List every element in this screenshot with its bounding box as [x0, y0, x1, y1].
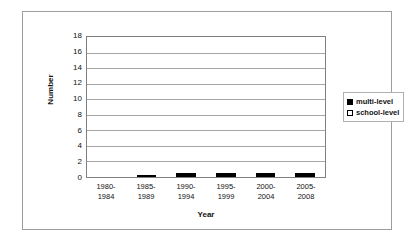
x-tick-line-1: 2000-: [246, 182, 286, 192]
filled-square-swatch: [347, 99, 353, 105]
bar-slot: [127, 37, 167, 177]
y-axis-tick-labels: 18 16 14 12 10 8 6 4 2 0: [61, 36, 82, 178]
x-axis-title: Year: [86, 210, 326, 219]
y-tick-label: 2: [61, 158, 82, 166]
x-tick-line-2: 1984: [86, 192, 126, 202]
y-tick-label: 10: [61, 95, 82, 103]
x-tick-line-2: 1999: [206, 192, 246, 202]
x-tick-line-1: 1980-: [86, 182, 126, 192]
plot-area: [86, 36, 326, 178]
legend-label: multi-level: [356, 97, 393, 106]
bar-slot: [246, 37, 286, 177]
y-tick-label: 8: [61, 111, 82, 119]
y-tick-label: 4: [61, 142, 82, 150]
legend-item-school-level[interactable]: school-level: [347, 107, 399, 118]
y-tick-label: 18: [61, 32, 82, 40]
x-tick-line-2: 1989: [126, 192, 166, 202]
x-tick-label: 1985- 1989: [126, 182, 166, 206]
x-tick-label: 2000- 2004: [246, 182, 286, 206]
chart-legend: multi-level school-level: [343, 92, 404, 122]
y-tick-label: 0: [61, 174, 82, 182]
bar-segment-school-level[interactable]: [256, 175, 276, 177]
empty-square-swatch: [347, 110, 353, 116]
y-axis-title: Number: [46, 60, 55, 120]
x-axis-tick-labels: 1980- 1984 1985- 1989 1990- 1994 1995- 1…: [86, 182, 326, 206]
bar-stack[interactable]: [256, 173, 276, 177]
x-tick-label: 1980- 1984: [86, 182, 126, 206]
y-tick-label: 14: [61, 64, 82, 72]
chart-figure: Number 18 16 14 12 10 8 6 4 2 0: [0, 0, 413, 244]
bar-segment-school-level[interactable]: [137, 175, 157, 177]
bar-stack[interactable]: [176, 173, 196, 177]
x-tick-line-1: 1995-: [206, 182, 246, 192]
x-tick-label: 1995- 1999: [206, 182, 246, 206]
y-tick-label: 16: [61, 48, 82, 56]
chart-frame: Number 18 16 14 12 10 8 6 4 2 0: [22, 11, 392, 230]
legend-item-multi-level[interactable]: multi-level: [347, 96, 399, 107]
bar-slot: [166, 37, 206, 177]
bar-slot: [87, 37, 127, 177]
x-tick-line-2: 2004: [246, 192, 286, 202]
bar-slot: [206, 37, 246, 177]
x-tick-line-1: 1990-: [166, 182, 206, 192]
y-tick-label: 12: [61, 79, 82, 87]
bar-stack[interactable]: [137, 175, 157, 177]
x-tick-line-1: 2005-: [286, 182, 326, 192]
x-tick-label: 2005- 2008: [286, 182, 326, 206]
y-tick-label: 6: [61, 127, 82, 135]
bar-stack[interactable]: [216, 173, 236, 177]
bar-segment-school-level[interactable]: [295, 175, 315, 177]
bar-stack[interactable]: [295, 173, 315, 177]
bar-segment-school-level[interactable]: [216, 175, 236, 177]
legend-label: school-level: [356, 108, 399, 117]
bars-layer: [87, 37, 325, 177]
x-tick-line-2: 1994: [166, 192, 206, 202]
x-tick-line-2: 2008: [286, 192, 326, 202]
x-tick-label: 1990- 1994: [166, 182, 206, 206]
bar-slot: [285, 37, 325, 177]
bar-segment-school-level[interactable]: [176, 175, 196, 177]
x-tick-line-1: 1985-: [126, 182, 166, 192]
